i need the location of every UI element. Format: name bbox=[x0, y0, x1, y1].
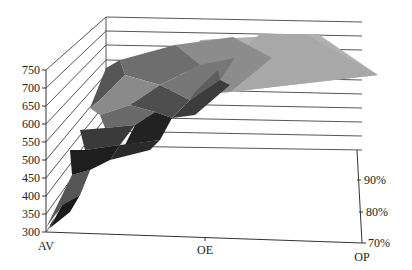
y-label-750: 750 bbox=[22, 63, 40, 77]
x-label-oe: OE bbox=[197, 243, 213, 257]
y-label-600: 600 bbox=[22, 117, 40, 131]
y-label-700: 700 bbox=[22, 81, 40, 95]
x-label-op: OP bbox=[354, 250, 370, 264]
x-axis-labels: AV OE OP bbox=[38, 239, 370, 264]
y-axis-labels: 300 350 400 450 500 550 600 650 700 750 bbox=[22, 63, 40, 239]
depth-axis-line bbox=[357, 150, 362, 243]
y-label-300: 300 bbox=[22, 225, 40, 239]
y-label-650: 650 bbox=[22, 99, 40, 113]
y-label-400: 400 bbox=[22, 189, 40, 203]
y-label-450: 450 bbox=[22, 171, 40, 185]
y-label-550: 550 bbox=[22, 135, 40, 149]
surface-chart: 300 350 400 450 500 550 600 650 700 750 … bbox=[0, 0, 412, 270]
y-ticks bbox=[42, 70, 46, 232]
y-label-500: 500 bbox=[22, 153, 40, 167]
y-label-350: 350 bbox=[22, 207, 40, 221]
depth-label-90: 90% bbox=[364, 173, 386, 187]
depth-label-70: 70% bbox=[368, 236, 390, 250]
x-axis-line bbox=[46, 232, 362, 243]
depth-label-80: 80% bbox=[366, 205, 388, 219]
depth-axis-labels: 70% 80% 90% bbox=[364, 173, 390, 250]
x-label-av: AV bbox=[38, 239, 54, 253]
